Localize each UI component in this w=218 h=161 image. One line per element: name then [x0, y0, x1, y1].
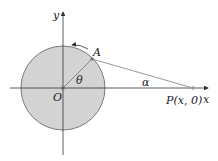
x-axis-label: x	[203, 93, 210, 106]
point-p-dot	[191, 86, 195, 90]
point-p-label: P(x, 0)	[165, 94, 202, 107]
alpha-label: α	[142, 76, 150, 89]
theta-label: θ	[76, 74, 83, 87]
y-axis-label: y	[52, 9, 60, 22]
crank-diagram: y x O A θ α P(x, 0)	[0, 0, 218, 161]
origin-label: O	[53, 91, 62, 104]
point-o	[61, 86, 65, 90]
point-a-label: A	[92, 46, 101, 59]
